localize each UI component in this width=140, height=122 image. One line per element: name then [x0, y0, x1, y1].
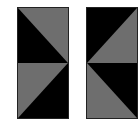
left-panel — [17, 7, 69, 119]
left-triangles-graphic — [18, 8, 68, 118]
right-triangles-graphic — [87, 8, 137, 118]
right-panel — [86, 7, 138, 119]
